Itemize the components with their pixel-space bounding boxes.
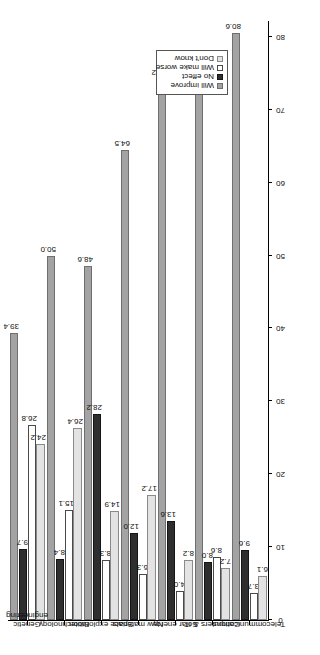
bar-value-label: 8.2 bbox=[182, 549, 193, 558]
value-axis-tick-label: 80 bbox=[266, 33, 296, 42]
legend-swatch bbox=[217, 65, 223, 71]
category-axis-tick bbox=[175, 621, 176, 625]
bar bbox=[250, 593, 258, 620]
category-axis-tick bbox=[27, 621, 28, 625]
legend-swatch bbox=[217, 74, 223, 80]
bar bbox=[19, 549, 27, 620]
bar bbox=[158, 79, 166, 620]
bar bbox=[147, 495, 155, 620]
bar bbox=[258, 576, 266, 620]
category-axis-tick bbox=[64, 621, 65, 625]
bar-value-label: 13.6 bbox=[160, 510, 176, 519]
category-axis-tick bbox=[101, 621, 102, 625]
value-axis-tick-label: 10 bbox=[266, 543, 296, 552]
value-axis-tick-label: 40 bbox=[266, 324, 296, 333]
bar-value-label: 39.4 bbox=[4, 322, 20, 331]
bar-value-label: 8.4 bbox=[54, 548, 65, 557]
bar-value-label: 24.2 bbox=[30, 433, 46, 442]
bar bbox=[130, 533, 138, 620]
bar bbox=[36, 444, 44, 620]
bar-group: 80.69.63.76.1 bbox=[232, 0, 269, 620]
bar bbox=[213, 557, 221, 620]
bar-value-label: 15.1 bbox=[58, 499, 74, 508]
bar-group: 39.49.726.824.2 bbox=[10, 0, 47, 620]
category-axis-tick bbox=[138, 621, 139, 625]
bar bbox=[28, 425, 36, 620]
bar-value-label: 26.4 bbox=[67, 417, 83, 426]
bar-value-label: 80.6 bbox=[226, 22, 242, 31]
bar-value-label: 3.7 bbox=[248, 582, 259, 591]
legend-item: No effect bbox=[161, 73, 223, 81]
bar-value-label: 48.6 bbox=[78, 255, 94, 264]
bar-value-label: 4.0 bbox=[174, 580, 185, 589]
legend-item: Will make worse bbox=[161, 64, 223, 72]
bar-value-label: 14.9 bbox=[104, 500, 120, 509]
legend-swatch bbox=[217, 83, 223, 89]
bar bbox=[204, 562, 212, 620]
bar bbox=[10, 333, 18, 620]
category-axis-tick bbox=[249, 621, 250, 625]
bar bbox=[102, 560, 110, 620]
bar bbox=[139, 574, 147, 620]
chart-canvas: 01020304050607080 39.49.726.824.250.08.4… bbox=[0, 0, 320, 655]
bar bbox=[232, 33, 240, 620]
bar-value-label: 6.3 bbox=[137, 563, 148, 572]
bar bbox=[195, 65, 203, 620]
bar bbox=[110, 511, 118, 620]
chart-legend: Will improveNo effectWill make worseDon'… bbox=[156, 50, 228, 95]
bar bbox=[47, 256, 55, 620]
bar-value-label: 6.1 bbox=[256, 565, 267, 574]
legend-label: Will make worse bbox=[156, 64, 214, 73]
value-axis-tick-label: 50 bbox=[266, 251, 296, 260]
bar bbox=[184, 560, 192, 620]
bar bbox=[167, 521, 175, 620]
legend-item: Will improve bbox=[161, 82, 223, 90]
bar bbox=[176, 591, 184, 620]
legend-label: Will improve bbox=[170, 82, 214, 91]
legend-swatch bbox=[217, 56, 223, 62]
value-axis-tick-label: 20 bbox=[266, 470, 296, 479]
category-axis-tick bbox=[212, 621, 213, 625]
value-axis-tick-label: 30 bbox=[266, 397, 296, 406]
bar-value-label: 9.7 bbox=[17, 538, 28, 547]
bar-value-label: 26.8 bbox=[21, 414, 37, 423]
bar bbox=[121, 150, 129, 620]
bar bbox=[93, 415, 101, 621]
bar-value-label: 28.2 bbox=[86, 404, 102, 413]
value-axis-tick-label: 60 bbox=[266, 178, 296, 187]
plot-area: 01020304050607080 39.49.726.824.250.08.4… bbox=[0, 0, 320, 655]
bar-value-label: 50.0 bbox=[41, 245, 57, 254]
legend-item: Don't know bbox=[161, 55, 223, 63]
bar bbox=[65, 510, 73, 620]
legend-label: Don't know bbox=[175, 55, 214, 64]
chart-rotation-wrapper: 01020304050607080 39.49.726.824.250.08.4… bbox=[0, 0, 320, 655]
bar-value-label: 7.2 bbox=[219, 557, 230, 566]
bar-value-label: 8.3 bbox=[100, 549, 111, 558]
bar-value-label: 12.0 bbox=[123, 522, 139, 531]
bar-group: 64.512.06.317.2 bbox=[121, 0, 158, 620]
bar-group: 48.628.28.314.9 bbox=[84, 0, 121, 620]
bar-value-label: 9.6 bbox=[239, 539, 250, 548]
bar-group: 50.08.415.126.4 bbox=[47, 0, 84, 620]
bar-value-label: 17.2 bbox=[141, 484, 157, 493]
value-axis-tick-label: 70 bbox=[266, 105, 296, 114]
bar bbox=[84, 266, 92, 620]
bar-value-label: 64.5 bbox=[115, 139, 131, 148]
bar bbox=[73, 428, 81, 620]
bar-value-label: 8.6 bbox=[211, 546, 222, 555]
legend-label: No effect bbox=[182, 73, 214, 82]
bar bbox=[221, 568, 229, 620]
